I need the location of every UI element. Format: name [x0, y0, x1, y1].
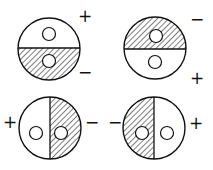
minus-sign: − — [85, 112, 99, 132]
element-bottom-right: − + — [108, 96, 203, 160]
plus-sign: + — [78, 6, 92, 26]
minus-sign: − — [108, 112, 122, 132]
plus-sign: + — [190, 68, 204, 88]
element-bottom-left: + − — [3, 96, 99, 160]
hole-icon — [43, 28, 56, 41]
element-top-right: − + — [123, 9, 204, 88]
hole-icon — [55, 127, 68, 140]
element-top-left: + − — [17, 6, 92, 82]
plus-sign: + — [189, 113, 203, 133]
hole-icon — [161, 127, 174, 140]
hole-icon — [30, 127, 43, 140]
plus-sign: + — [3, 112, 17, 132]
hole-icon — [150, 30, 163, 43]
polarity-diagram: + − − + + − − + — [0, 0, 213, 170]
minus-sign: − — [78, 62, 92, 82]
hole-icon — [43, 55, 56, 68]
hole-icon — [149, 56, 162, 69]
hole-icon — [136, 127, 149, 140]
minus-sign: − — [190, 9, 204, 29]
